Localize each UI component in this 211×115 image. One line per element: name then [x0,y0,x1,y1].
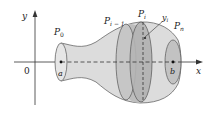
p-i-minus-1-label: Pi − 1 [103,16,125,27]
x-axis-label: x [196,66,201,76]
radius-point-dot [144,37,146,39]
point-a-dot [60,61,63,64]
y-i-label: yi [161,13,169,23]
p-i-label: Pi [137,9,146,20]
p0-label: P0 [53,27,64,38]
y-axis [33,10,38,105]
point-b-dot [172,61,175,64]
surface-of-revolution-diagram: y x 0 a b P0 Pi − 1 Pi Pn yi [0,0,211,115]
b-label: b [170,67,175,76]
a-label: a [58,69,63,78]
origin-label: 0 [24,66,30,76]
p-n-label: Pn [173,21,184,32]
y-axis-label: y [21,11,28,21]
x-axis-arrow-icon [196,60,203,65]
y-axis-arrow-icon [33,10,38,17]
